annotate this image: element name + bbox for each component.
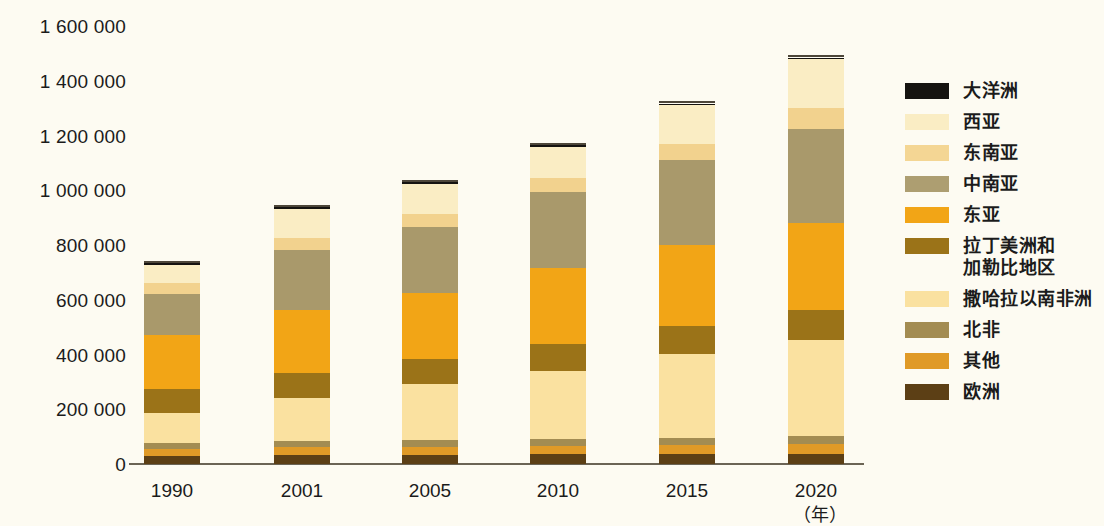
bar-top-rule: [788, 55, 844, 57]
y-axis-tick-label: 600 000: [0, 290, 126, 309]
bar-segment[interactable]: [274, 250, 330, 309]
bar-segment[interactable]: [144, 335, 200, 389]
legend-item-label: 东南亚: [963, 142, 1019, 164]
stacked-bar[interactable]: [788, 58, 844, 464]
bar-segment[interactable]: [659, 160, 715, 245]
legend-item-label: 西亚: [963, 111, 1000, 133]
legend-item[interactable]: 撒哈拉以南非洲: [905, 288, 1104, 310]
bar-segment[interactable]: [402, 184, 458, 214]
bar-segment[interactable]: [530, 178, 586, 193]
bar-segment[interactable]: [788, 444, 844, 454]
bar-segment[interactable]: [659, 354, 715, 438]
bar-top-rule: [530, 143, 586, 145]
x-axis-tick-label: 1990: [130, 481, 214, 500]
bar-segment[interactable]: [659, 326, 715, 354]
bar-segment[interactable]: [788, 436, 844, 444]
y-axis-tick-label: 1 400 000: [0, 71, 126, 90]
legend-color-swatch: [905, 291, 949, 307]
legend-item-label: 欧洲: [963, 381, 1000, 403]
x-axis-tick-label: 2010: [516, 481, 600, 500]
x-axis-tick-label: 2005: [388, 481, 472, 500]
bar-segment[interactable]: [530, 439, 586, 446]
y-axis-tick-label: 200 000: [0, 400, 126, 419]
stacked-bar[interactable]: [274, 207, 330, 464]
y-axis-tick-label: 1 000 000: [0, 181, 126, 200]
bar-segment[interactable]: [402, 214, 458, 227]
bar-segment[interactable]: [788, 129, 844, 223]
bar-segment[interactable]: [402, 447, 458, 455]
bar-segment[interactable]: [659, 245, 715, 326]
bar-segment[interactable]: [659, 438, 715, 445]
bar-segment[interactable]: [144, 265, 200, 283]
bar-segment[interactable]: [659, 454, 715, 464]
bar-segment[interactable]: [274, 209, 330, 238]
bar-segment[interactable]: [788, 340, 844, 436]
bar-segment[interactable]: [402, 359, 458, 384]
bar-segment[interactable]: [530, 446, 586, 454]
bar-segment[interactable]: [402, 384, 458, 440]
stacked-bar[interactable]: [144, 263, 200, 464]
x-axis-tick-label: 2015: [645, 481, 729, 500]
legend-color-swatch: [905, 145, 949, 161]
legend-item[interactable]: 大洋洲: [905, 80, 1104, 102]
legend-item-label: 东亚: [963, 204, 1000, 226]
legend-item-label: 中南亚: [963, 173, 1019, 195]
bar-segment[interactable]: [144, 449, 200, 456]
legend-item[interactable]: 中南亚: [905, 173, 1104, 195]
stacked-bar[interactable]: [659, 104, 715, 464]
bar-segment[interactable]: [274, 398, 330, 441]
legend-item-label: 北非: [963, 319, 1000, 341]
stacked-bar[interactable]: [530, 145, 586, 464]
bar-top-rule: [274, 205, 330, 207]
bar-segment[interactable]: [402, 293, 458, 359]
bar-segment[interactable]: [659, 445, 715, 454]
bar-segment[interactable]: [274, 238, 330, 250]
stacked-bar[interactable]: [402, 182, 458, 464]
bar-segment[interactable]: [144, 456, 200, 464]
bar-segment[interactable]: [530, 147, 586, 178]
y-axis: 0200 000400 000600 000800 0001 000 0001 …: [0, 0, 126, 526]
legend-item[interactable]: 欧洲: [905, 381, 1104, 403]
legend-item-label: 撒哈拉以南非洲: [963, 288, 1093, 310]
x-axis-unit-label: （年）: [778, 506, 862, 524]
bar-segment[interactable]: [788, 223, 844, 310]
bar-segment[interactable]: [788, 108, 844, 129]
bar-segment[interactable]: [788, 59, 844, 108]
legend-item[interactable]: 北非: [905, 319, 1104, 341]
y-axis-tick-label: 1 600 000: [0, 17, 126, 36]
x-axis-line: [129, 463, 864, 465]
bar-segment[interactable]: [274, 373, 330, 398]
bar-segment[interactable]: [402, 227, 458, 294]
legend-color-swatch: [905, 176, 949, 192]
bar-segment[interactable]: [659, 105, 715, 144]
bar-segment[interactable]: [788, 310, 844, 339]
bar-segment[interactable]: [274, 455, 330, 464]
legend-item[interactable]: 其他: [905, 350, 1104, 372]
bar-segment[interactable]: [530, 454, 586, 464]
legend-item[interactable]: 拉丁美洲和 加勒比地区: [905, 235, 1104, 279]
bar-segment[interactable]: [530, 192, 586, 267]
bar-segment[interactable]: [144, 283, 200, 293]
legend-color-swatch: [905, 83, 949, 99]
bar-segment[interactable]: [530, 344, 586, 371]
bar-segment[interactable]: [144, 413, 200, 443]
legend-item[interactable]: 西亚: [905, 111, 1104, 133]
bar-segment[interactable]: [274, 447, 330, 455]
legend-color-swatch: [905, 353, 949, 369]
stacked-bar-chart: 0200 000400 000600 000800 0001 000 0001 …: [0, 0, 1104, 526]
legend-item[interactable]: 东亚: [905, 204, 1104, 226]
bar-segment[interactable]: [402, 455, 458, 464]
legend-color-swatch: [905, 114, 949, 130]
bar-top-rule: [144, 261, 200, 263]
bar-segment[interactable]: [274, 310, 330, 373]
plot-area: 199020012005201020152020（年）: [126, 0, 868, 526]
legend-item-label: 拉丁美洲和 加勒比地区: [963, 235, 1056, 279]
bar-segment[interactable]: [530, 268, 586, 344]
bar-segment[interactable]: [788, 454, 844, 464]
bar-segment[interactable]: [144, 389, 200, 413]
legend-item[interactable]: 东南亚: [905, 142, 1104, 164]
y-axis-tick-label: 1 200 000: [0, 126, 126, 145]
bar-segment[interactable]: [144, 294, 200, 335]
bar-segment[interactable]: [659, 144, 715, 160]
bar-segment[interactable]: [530, 371, 586, 439]
